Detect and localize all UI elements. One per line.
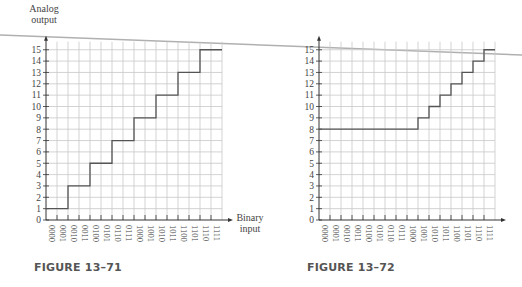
y-tick-label: 11 bbox=[32, 90, 41, 100]
x-axis-arrow-icon bbox=[501, 218, 506, 222]
y-tick-label: 6 bbox=[36, 147, 41, 157]
y-tick-label: 5 bbox=[309, 159, 314, 169]
figure-caption: FIGURE 13–71 bbox=[34, 261, 122, 274]
y-tick-label: 9 bbox=[309, 113, 314, 123]
x-tick-label: 0000 bbox=[320, 225, 330, 242]
y-tick-label: 15 bbox=[32, 45, 42, 55]
y-axis-arrow-icon bbox=[317, 36, 321, 41]
x-tick-label: 1000 bbox=[135, 225, 145, 242]
x-tick-label: 0111 bbox=[397, 225, 407, 241]
figure-caption: FIGURE 13–72 bbox=[307, 261, 395, 274]
x-tick-label: 1001 bbox=[146, 225, 156, 242]
x-tick-label: 0000 bbox=[47, 225, 57, 242]
x-tick-label: 1100 bbox=[179, 225, 189, 242]
x-tick-label: 1011 bbox=[168, 225, 178, 242]
x-tick-label: 0010 bbox=[69, 225, 79, 242]
x-tick-label: 1000 bbox=[408, 225, 418, 242]
y-tick-label: 14 bbox=[305, 56, 315, 66]
x-tick-label: 0011 bbox=[353, 225, 363, 242]
x-tick-label: 0110 bbox=[113, 225, 123, 242]
y-tick-label: 8 bbox=[36, 125, 41, 135]
x-tick-label: 0010 bbox=[342, 225, 352, 242]
x-axis-title: input bbox=[240, 223, 261, 234]
y-axis-title: output bbox=[31, 14, 57, 25]
scan-artifact-line bbox=[0, 35, 522, 55]
x-tick-label: 1100 bbox=[452, 225, 462, 242]
y-tick-label: 4 bbox=[309, 170, 314, 180]
x-tick-label: 0101 bbox=[375, 225, 385, 242]
x-tick-label: 1101 bbox=[190, 225, 200, 242]
y-axis-title: Analog bbox=[29, 3, 58, 14]
y-tick-label: 2 bbox=[36, 193, 41, 203]
y-tick-label: 7 bbox=[36, 136, 41, 146]
chart-figure-13-72: 0123456789101112131415000000010010001101… bbox=[305, 36, 507, 274]
y-tick-label: 12 bbox=[32, 79, 42, 89]
y-tick-label: 2 bbox=[309, 193, 314, 203]
y-tick-label: 12 bbox=[305, 79, 315, 89]
x-tick-label: 0100 bbox=[91, 225, 101, 242]
y-tick-label: 1 bbox=[36, 204, 41, 214]
x-tick-label: 0111 bbox=[124, 225, 134, 241]
x-tick-label: 1010 bbox=[430, 225, 440, 242]
y-tick-label: 9 bbox=[36, 113, 41, 123]
y-tick-label: 3 bbox=[36, 181, 41, 191]
y-tick-label: 14 bbox=[32, 56, 42, 66]
x-tick-label: 0001 bbox=[331, 225, 341, 242]
y-tick-label: 5 bbox=[36, 159, 41, 169]
x-tick-label: 1110 bbox=[474, 225, 484, 241]
x-tick-label: 0110 bbox=[386, 225, 396, 242]
x-tick-label: 0011 bbox=[80, 225, 90, 242]
y-tick-label: 0 bbox=[36, 215, 41, 225]
y-tick-label: 0 bbox=[309, 215, 314, 225]
y-tick-label: 3 bbox=[309, 181, 314, 191]
x-tick-label: 1001 bbox=[419, 225, 429, 242]
x-tick-label: 1110 bbox=[201, 225, 211, 241]
y-tick-label: 7 bbox=[309, 136, 314, 146]
x-tick-label: 0001 bbox=[58, 225, 68, 242]
y-tick-label: 4 bbox=[36, 170, 41, 180]
y-tick-label: 6 bbox=[309, 147, 314, 157]
x-tick-label: 1111 bbox=[485, 225, 495, 241]
y-tick-label: 15 bbox=[305, 45, 315, 55]
y-tick-label: 11 bbox=[305, 90, 314, 100]
figure-canvas: 0123456789101112131415000000010010001101… bbox=[0, 0, 522, 287]
x-axis-arrow-icon bbox=[228, 218, 233, 222]
x-axis-title: Binary bbox=[236, 212, 263, 223]
x-tick-label: 0101 bbox=[102, 225, 112, 242]
y-tick-label: 10 bbox=[305, 102, 315, 112]
x-tick-label: 1111 bbox=[212, 225, 222, 241]
x-tick-label: 0100 bbox=[364, 225, 374, 242]
x-tick-label: 1011 bbox=[441, 225, 451, 242]
y-tick-label: 13 bbox=[32, 68, 42, 78]
x-tick-label: 1010 bbox=[157, 225, 167, 242]
y-tick-label: 10 bbox=[32, 102, 42, 112]
y-tick-label: 1 bbox=[309, 204, 314, 214]
x-tick-label: 1101 bbox=[463, 225, 473, 242]
y-tick-label: 8 bbox=[309, 125, 314, 135]
y-tick-label: 13 bbox=[305, 68, 315, 78]
